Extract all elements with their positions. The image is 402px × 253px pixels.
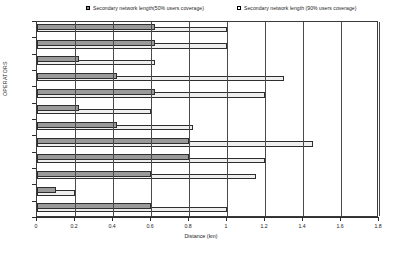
x-axis-title: Distance (km) bbox=[0, 233, 402, 239]
gridline bbox=[265, 22, 266, 216]
y-axis-tick bbox=[32, 135, 36, 136]
chart-legend: Secondary network length(50% users cover… bbox=[0, 4, 402, 18]
x-axis-tick-label: 0.8 bbox=[184, 223, 191, 229]
y-axis-tick bbox=[32, 152, 36, 153]
y-axis-tick bbox=[32, 168, 36, 169]
bar-row bbox=[37, 169, 379, 185]
bar-50-percent bbox=[37, 56, 79, 62]
gridline bbox=[113, 22, 114, 216]
x-axis-tick-label: 0 bbox=[35, 223, 38, 229]
bar-50-percent bbox=[37, 187, 56, 193]
gridline bbox=[227, 22, 228, 216]
bar-row bbox=[37, 87, 379, 103]
bar-50-percent bbox=[37, 171, 151, 177]
x-axis-tick-label: 1.4 bbox=[298, 223, 305, 229]
bar-50-percent bbox=[37, 40, 155, 46]
gridline bbox=[379, 22, 380, 216]
x-axis-tick-label: 0.4 bbox=[108, 223, 115, 229]
bar-50-percent bbox=[37, 203, 151, 209]
y-axis-tick bbox=[32, 21, 36, 22]
bar-row bbox=[37, 71, 379, 87]
x-axis-tick-label: 1.2 bbox=[260, 223, 267, 229]
x-axis-tick-label: 1.6 bbox=[336, 223, 343, 229]
bar-50-percent bbox=[37, 105, 79, 111]
gridline bbox=[189, 22, 190, 216]
x-axis-tick-label: 1.8 bbox=[374, 223, 381, 229]
legend-swatch-90-percent-icon bbox=[237, 6, 241, 10]
bar-50-percent bbox=[37, 89, 155, 95]
y-axis-tick bbox=[32, 37, 36, 38]
bar-row bbox=[37, 136, 379, 152]
x-axis-tick-label: 1 bbox=[225, 223, 228, 229]
legend-item-90-percent: Secondary network length (90% users cove… bbox=[237, 5, 356, 11]
y-axis-tick bbox=[32, 103, 36, 104]
y-axis-tick bbox=[32, 184, 36, 185]
bar-50-percent bbox=[37, 73, 117, 79]
gridline bbox=[303, 22, 304, 216]
bar-row bbox=[37, 202, 379, 218]
legend-label-90-percent: Secondary network length (90% users cove… bbox=[244, 5, 356, 11]
y-axis-tick bbox=[32, 54, 36, 55]
bar-row bbox=[37, 55, 379, 71]
x-axis-tick bbox=[378, 217, 379, 221]
bar-row bbox=[37, 104, 379, 120]
gridline bbox=[151, 22, 152, 216]
bar-50-percent bbox=[37, 122, 117, 128]
bar-row bbox=[37, 38, 379, 54]
bar-50-percent bbox=[37, 24, 155, 30]
x-axis-tick-label: 0.6 bbox=[146, 223, 153, 229]
gridline bbox=[341, 22, 342, 216]
gridline bbox=[75, 22, 76, 216]
chart-container: Secondary network length(50% users cover… bbox=[0, 0, 402, 253]
y-axis-tick bbox=[32, 201, 36, 202]
plot-area bbox=[36, 21, 378, 217]
legend-item-50-percent: Secondary network length(50% users cover… bbox=[86, 5, 204, 11]
legend-label-50-percent: Secondary network length(50% users cover… bbox=[93, 5, 204, 11]
bar-rows bbox=[37, 22, 377, 216]
bar-row bbox=[37, 22, 379, 38]
y-axis-tick bbox=[32, 119, 36, 120]
legend-swatch-50-percent-icon bbox=[86, 6, 90, 10]
x-axis-tick-label: 0.2 bbox=[70, 223, 77, 229]
y-axis-tick bbox=[32, 70, 36, 71]
bar-row bbox=[37, 185, 379, 201]
y-axis-tick bbox=[32, 86, 36, 87]
bar-row bbox=[37, 153, 379, 169]
x-axis-line bbox=[36, 217, 378, 218]
bar-row bbox=[37, 120, 379, 136]
y-axis-title: OPERATORS bbox=[2, 61, 8, 96]
